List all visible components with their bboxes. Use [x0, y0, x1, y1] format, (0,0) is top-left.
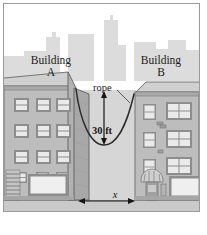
- window: [36, 150, 51, 164]
- window: [166, 157, 192, 175]
- storefront-window-b: [169, 176, 199, 198]
- window: [143, 104, 156, 120]
- window: [56, 98, 71, 112]
- window: [14, 98, 29, 112]
- window: [166, 130, 192, 148]
- building-b-cornice: [135, 92, 199, 96]
- building-scene-illustration: [4, 4, 199, 211]
- entrance-post: [161, 184, 166, 196]
- window: [36, 124, 51, 138]
- window: [14, 150, 29, 164]
- figure-container: Building A Building B rope 30 ft x: [0, 0, 207, 235]
- window: [14, 124, 29, 138]
- window: [36, 98, 51, 112]
- building-b-windows-narrow: [143, 104, 156, 175]
- building-b-plinth: [135, 196, 199, 200]
- window: [166, 102, 192, 120]
- ground-strip: [4, 200, 199, 211]
- building-b: [135, 82, 199, 200]
- window: [143, 132, 156, 148]
- building-a-plinth: [4, 196, 74, 200]
- figure-frame: Building A Building B rope 30 ft x: [3, 3, 200, 212]
- building-a-cornice: [4, 86, 74, 90]
- window: [56, 150, 71, 164]
- building-b-windows-wide: [166, 102, 192, 175]
- door-window: [148, 185, 156, 192]
- storefront-window-a: [28, 174, 68, 196]
- fire-escape: [6, 170, 20, 200]
- window: [56, 124, 71, 138]
